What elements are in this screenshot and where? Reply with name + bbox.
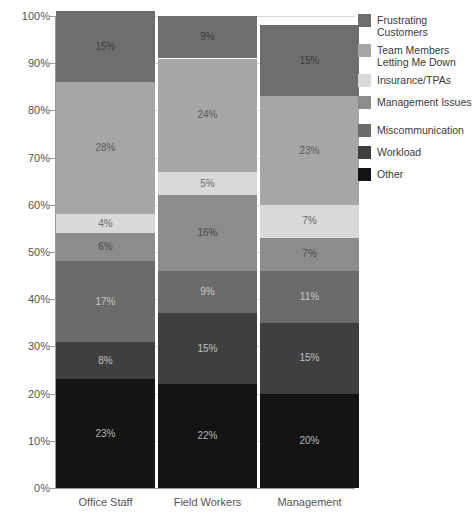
bar-column[interactable]: 23%8%17%6%4%28%15% (56, 16, 155, 488)
legend-label: Other (377, 168, 403, 180)
bar-segment[interactable]: 15% (260, 323, 359, 394)
bar-segment[interactable]: 11% (260, 271, 359, 323)
gridline (56, 488, 355, 489)
legend-label: Workload (377, 146, 421, 158)
bar-column[interactable]: 20%15%11%7%7%23%15% (260, 16, 359, 488)
bar-segment[interactable]: 9% (158, 16, 257, 58)
segment-data-label: 11% (300, 292, 319, 302)
y-tick-mark (50, 16, 55, 17)
legend-swatch (358, 44, 371, 57)
segment-data-label: 16% (197, 228, 217, 238)
y-tick-label: 80% (6, 105, 50, 116)
legend-swatch (358, 146, 371, 159)
legend-label: Frustrating Customers (377, 14, 428, 38)
segment-data-label: 9% (200, 287, 214, 297)
y-tick-label: 30% (6, 341, 50, 352)
legend-item[interactable]: Management Issues (358, 96, 472, 109)
segment-data-label: 28% (95, 143, 115, 153)
segment-data-label: 8% (98, 356, 112, 366)
segment-data-label: 17% (95, 297, 115, 307)
segment-data-label: 6% (98, 242, 112, 252)
segment-data-label: 15% (197, 344, 217, 354)
y-tick-label: 100% (6, 11, 50, 22)
segment-data-label: 4% (98, 219, 112, 229)
segment-data-label: 9% (200, 32, 214, 42)
y-tick-label: 10% (6, 436, 50, 447)
legend-item[interactable]: Frustrating Customers (358, 14, 428, 38)
x-tick-label: Office Staff (51, 496, 161, 508)
segment-data-label: 15% (95, 42, 115, 52)
legend-item[interactable]: Other (358, 168, 403, 181)
bar-segment[interactable]: 7% (260, 238, 359, 271)
segment-data-label: 23% (95, 429, 115, 439)
legend-item[interactable]: Workload (358, 146, 421, 159)
legend-item[interactable]: Team Members Letting Me Down (358, 44, 456, 68)
bar-segment[interactable]: 7% (260, 205, 359, 238)
y-tick-mark (50, 158, 55, 159)
y-tick-label: 60% (6, 200, 50, 211)
y-tick-label: 20% (6, 389, 50, 400)
legend-swatch (358, 14, 371, 27)
bar-segment[interactable]: 20% (260, 394, 359, 488)
bar-segment[interactable]: 23% (260, 96, 359, 205)
segment-data-label: 22% (197, 431, 217, 441)
bar-column[interactable]: 22%15%9%16%5%24%9% (158, 16, 257, 488)
y-tick-label: 90% (6, 58, 50, 69)
segment-data-label: 5% (200, 179, 214, 189)
segment-data-label: 7% (302, 249, 316, 259)
bar-segment[interactable]: 15% (158, 313, 257, 384)
legend-swatch (358, 124, 371, 137)
bar-segment[interactable]: 15% (56, 11, 155, 82)
legend-swatch (358, 96, 371, 109)
segment-data-label: 7% (302, 216, 316, 226)
bar-segment[interactable]: 6% (56, 233, 155, 261)
y-tick-mark (50, 441, 55, 442)
y-tick-mark (50, 346, 55, 347)
bar-segment[interactable]: 5% (158, 172, 257, 196)
y-tick-label: 0% (6, 483, 50, 494)
stacked-bar-chart: 0%10%20%30%40%50%60%70%80%90%100% 23%8%1… (0, 0, 475, 519)
bar-segment[interactable]: 23% (56, 379, 155, 488)
legend-swatch (358, 74, 371, 87)
bar-segment[interactable]: 16% (158, 195, 257, 271)
segment-data-label: 15% (299, 353, 319, 363)
y-tick-mark (50, 394, 55, 395)
y-tick-mark (50, 110, 55, 111)
y-tick-mark (50, 488, 55, 489)
segment-data-label: 23% (299, 146, 319, 156)
legend-swatch (358, 168, 371, 181)
legend-label: Management Issues (377, 96, 472, 108)
x-tick-label: Management (255, 496, 365, 508)
bar-segment[interactable]: 15% (260, 25, 359, 96)
y-tick-label: 40% (6, 294, 50, 305)
legend-label: Miscommunication (377, 124, 464, 136)
y-tick-mark (50, 252, 55, 253)
y-tick-label: 70% (6, 153, 50, 164)
legend-item[interactable]: Miscommunication (358, 124, 464, 137)
legend-label: Team Members Letting Me Down (377, 44, 456, 68)
segment-data-label: 20% (299, 436, 319, 446)
bar-segment[interactable]: 9% (158, 271, 257, 313)
y-tick-mark (50, 205, 55, 206)
bar-segment[interactable]: 24% (158, 59, 257, 172)
y-axis: 0%10%20%30%40%50%60%70%80%90%100% (0, 0, 50, 519)
segment-data-label: 15% (299, 56, 319, 66)
y-tick-label: 50% (6, 247, 50, 258)
bar-segment[interactable]: 8% (56, 342, 155, 380)
bar-segment[interactable]: 4% (56, 214, 155, 233)
legend-item[interactable]: Insurance/TPAs (358, 74, 451, 87)
bar-segment[interactable]: 17% (56, 261, 155, 341)
bar-segment[interactable]: 22% (158, 384, 257, 488)
plot-area: 23%8%17%6%4%28%15%22%15%9%16%5%24%9%20%1… (56, 16, 355, 488)
y-tick-mark (50, 63, 55, 64)
x-tick-label: Field Workers (153, 496, 263, 508)
y-tick-mark (50, 299, 55, 300)
legend-label: Insurance/TPAs (377, 74, 451, 86)
bar-segment[interactable]: 28% (56, 82, 155, 214)
segment-data-label: 24% (197, 110, 217, 120)
